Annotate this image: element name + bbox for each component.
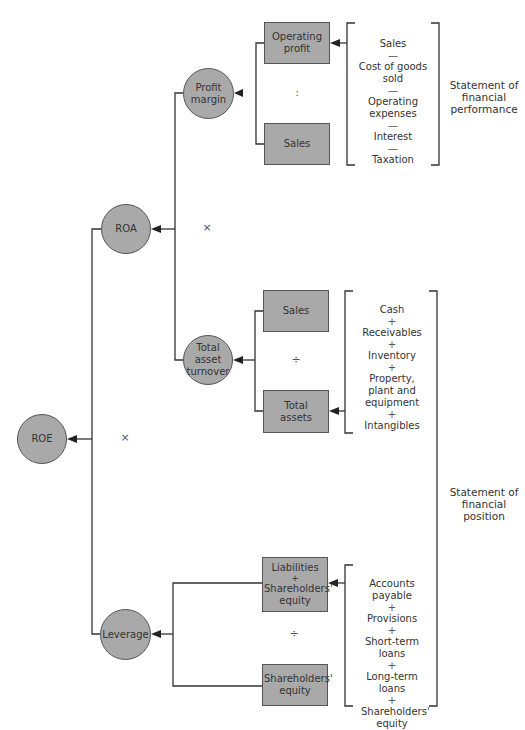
node-operating-profit: Operating profit xyxy=(264,22,330,64)
minus-sign: — xyxy=(352,85,434,96)
plus-sign: + xyxy=(352,339,432,350)
node-sales-profit-margin: Sales xyxy=(264,123,330,165)
operator-turnover: ÷ xyxy=(286,353,306,366)
funding-item: Short-term loans xyxy=(352,636,432,660)
leverage-branch-line xyxy=(173,583,262,686)
operator-leverage: ÷ xyxy=(284,627,304,640)
node-roa-label: ROA xyxy=(115,223,136,235)
total-assets-arrowhead-icon xyxy=(329,407,339,415)
statement-performance-label: Statement of financial performance xyxy=(443,79,525,115)
operator-profit-margin: : xyxy=(287,86,307,99)
minus-sign: — xyxy=(352,143,434,154)
turnover-arrowhead-icon xyxy=(233,356,243,364)
node-sales-profit-margin-label: Sales xyxy=(284,138,311,150)
minus-sign: — xyxy=(352,120,434,131)
performance-item: Operating expenses xyxy=(352,96,434,120)
plus-sign: + xyxy=(291,574,299,583)
plus-sign: + xyxy=(352,695,432,706)
asset-item: Property, plant and equipment xyxy=(357,373,427,409)
shareholders-equity-label: Shareholders' equity xyxy=(264,583,326,607)
turnover-branch-line xyxy=(255,311,263,411)
funding-item: Shareholders' equity xyxy=(361,706,423,730)
node-total-assets: Total assets xyxy=(263,390,329,433)
node-operating-profit-label: Operating profit xyxy=(269,31,325,55)
plus-sign: + xyxy=(352,602,432,613)
node-total-assets-label: Total assets xyxy=(276,400,316,424)
node-profit-margin-label: Profit margin xyxy=(189,82,229,106)
performance-item: Interest xyxy=(352,131,434,143)
node-shareholders-equity: Shareholders' equity xyxy=(262,664,328,706)
plus-sign: + xyxy=(352,362,432,373)
funding-items-list: Accounts payable + Provisions + Short-te… xyxy=(352,578,432,730)
node-total-asset-turnover: Total asset turnover xyxy=(183,335,233,385)
profit-margin-branch-line xyxy=(256,43,264,144)
node-shareholders-equity-label: Shareholders' equity xyxy=(264,673,326,697)
node-roe-label: ROE xyxy=(31,433,52,445)
plus-sign: + xyxy=(352,660,432,671)
roe-arrowhead-icon xyxy=(67,435,77,443)
operator-roa: × xyxy=(197,221,217,234)
roa-arrowhead-icon xyxy=(151,225,161,233)
roe-branch-line xyxy=(92,229,101,634)
leverage-arrowhead-icon xyxy=(151,630,161,638)
performance-item: Sales xyxy=(352,38,434,50)
performance-item: Taxation xyxy=(352,154,434,166)
funding-item: Long-term loans xyxy=(352,671,432,695)
asset-item: Cash xyxy=(352,304,432,316)
node-roa: ROA xyxy=(101,204,151,254)
funding-item: Accounts payable xyxy=(352,578,432,602)
node-sales-turnover: Sales xyxy=(263,290,329,332)
plus-sign: + xyxy=(352,625,432,636)
asset-item: Intangibles xyxy=(352,420,432,432)
plus-sign: + xyxy=(352,316,432,327)
statement-position-label: Statement of financial position xyxy=(443,486,525,522)
performance-items-list: Sales — Cost of goods sold — Operating e… xyxy=(352,38,434,166)
node-leverage: Leverage xyxy=(100,609,151,660)
node-leverage-label: Leverage xyxy=(102,629,148,641)
roa-branch-line xyxy=(175,93,183,360)
operating-profit-arrowhead-icon xyxy=(330,39,340,47)
node-sales-turnover-label: Sales xyxy=(283,305,310,317)
minus-sign: — xyxy=(352,50,434,61)
operator-roe: × xyxy=(115,431,135,444)
node-roe: ROE xyxy=(17,414,67,464)
node-liabilities-plus-equity: Liabilities + Shareholders' equity xyxy=(262,557,328,612)
asset-item: Inventory xyxy=(352,350,432,362)
funding-item: Provisions xyxy=(352,613,432,625)
performance-item: Cost of goods sold xyxy=(352,61,434,85)
profit-margin-arrowhead-icon xyxy=(234,89,243,97)
plus-sign: + xyxy=(352,409,432,420)
asset-item: Receivables xyxy=(352,327,432,339)
assets-items-list: Cash + Receivables + Inventory + Propert… xyxy=(352,304,432,432)
node-profit-margin: Profit margin xyxy=(183,68,234,119)
node-total-asset-turnover-label: Total asset turnover xyxy=(185,342,231,378)
